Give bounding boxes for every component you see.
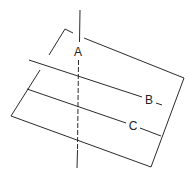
line-a-upper xyxy=(80,10,81,42)
label-a: A xyxy=(74,45,82,59)
line-b-tail xyxy=(156,103,162,105)
line-b xyxy=(29,60,142,97)
line-c-tail xyxy=(140,128,161,136)
plane-top-edge-left xyxy=(49,29,73,55)
label-b: B xyxy=(145,93,153,107)
line-a-hidden xyxy=(78,60,79,150)
plane-top-edge-right xyxy=(11,38,184,167)
line-c xyxy=(27,89,126,123)
line-a-lower xyxy=(77,150,78,168)
label-c: C xyxy=(129,119,138,133)
geometry-diagram: A B C xyxy=(0,0,192,180)
